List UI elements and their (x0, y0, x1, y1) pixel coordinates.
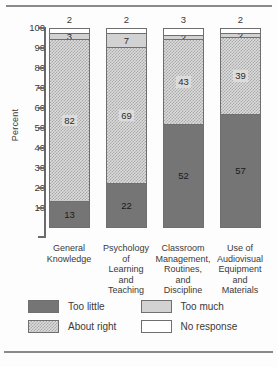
bar-4-value-about-right: 39 (234, 71, 247, 81)
bar-2-segment-too-much: 7 (107, 33, 146, 47)
y-tick-mark-60 (38, 107, 45, 109)
y-tick-mark-50 (38, 127, 45, 129)
bar-4-top-label: 2 (220, 14, 261, 25)
y-tick-mark-70 (38, 87, 45, 89)
legend-swatch-no-response-icon (141, 320, 172, 333)
legend-item-about-right[interactable]: About right (28, 320, 141, 333)
bar-3-value-about-right: 43 (177, 77, 190, 87)
bar-2-value-too-much: 7 (123, 36, 130, 46)
category-label-line: Routines, (152, 264, 214, 275)
bar-2-top-label: 2 (106, 14, 147, 25)
bar-4-value-too-little: 57 (234, 166, 247, 176)
y-tick-100: 100 (0, 27, 45, 29)
stacked-bar-2[interactable]: 76922 (106, 28, 147, 228)
y-tick-70: 70 (0, 87, 45, 89)
category-label-line: of (95, 254, 157, 265)
category-label-line: Learning (95, 264, 157, 275)
legend-label-about-right: About right (68, 321, 116, 332)
legend-row-1: Too little Too much (28, 300, 253, 313)
category-label-line: Audiovisual (209, 254, 271, 265)
stacked-bar-chart: Percent 100908070605040302010 3821327692… (0, 0, 277, 367)
legend-swatch-too-little-icon (28, 300, 59, 313)
y-axis-cap-bottom (38, 236, 46, 238)
y-tick-mark-90 (38, 47, 45, 49)
category-label-line: Knowledge (38, 254, 100, 265)
legend-item-too-much[interactable]: Too much (141, 300, 254, 313)
bar-1-segment-about-right: 82 (50, 39, 89, 201)
stacked-bar-3[interactable]: 24352 (163, 28, 204, 228)
legend-row-2: About right No response (28, 320, 253, 333)
bar-1-top-label: 2 (49, 14, 90, 25)
bar-3-top-label: 3 (163, 14, 204, 25)
bar-column-2: 76922 (106, 28, 147, 228)
y-tick-30: 30 (0, 167, 45, 169)
bar-column-1: 38213 (49, 28, 90, 228)
y-tick-mark-30 (38, 167, 45, 169)
legend-swatch-about-right-icon (28, 320, 59, 333)
y-tick-mark-100 (38, 27, 45, 29)
bar-column-3: 24352 (163, 28, 204, 228)
y-tick-80: 80 (0, 67, 45, 69)
category-label-line: and (95, 275, 157, 286)
legend-item-too-little[interactable]: Too little (28, 300, 141, 313)
bar-column-4: 23957 (220, 28, 261, 228)
y-tick-10: 10 (0, 207, 45, 209)
chart-legend: Too little Too much About right No respo… (28, 300, 253, 340)
category-label-line: Equipment (209, 264, 271, 275)
stacked-bar-1[interactable]: 38213 (49, 28, 90, 228)
y-tick-mark-40 (38, 147, 45, 149)
stacked-bar-4[interactable]: 23957 (220, 28, 261, 228)
legend-item-no-response[interactable]: No response (141, 320, 254, 333)
y-tick-20: 20 (0, 187, 45, 189)
category-label-3: ClassroomManagement,Routines,andDiscipli… (152, 243, 214, 296)
bar-1-value-too-little: 13 (63, 210, 76, 220)
category-label-line: General (38, 243, 100, 254)
category-label-line: Discipline (152, 285, 214, 296)
category-label-line: and (209, 275, 271, 286)
category-label-1: GeneralKnowledge (38, 243, 100, 264)
bar-4-segment-too-little: 57 (221, 114, 260, 227)
category-label-line: Management, (152, 254, 214, 265)
legend-label-no-response: No response (181, 321, 238, 332)
category-label-line: Classroom (152, 243, 214, 254)
category-label-line: Teaching (95, 285, 157, 296)
y-tick-60: 60 (0, 107, 45, 109)
bar-2-value-too-little: 22 (120, 201, 133, 211)
category-label-2: PsychologyofLearningandTeaching (95, 243, 157, 296)
bar-4-segment-about-right: 39 (221, 37, 260, 114)
category-label-4: Use ofAudiovisualEquipmentandMaterials (209, 243, 271, 296)
legend-label-too-much: Too much (181, 301, 224, 312)
bar-3-value-too-little: 52 (177, 171, 190, 181)
legend-label-too-little: Too little (68, 301, 105, 312)
bar-3-segment-about-right: 43 (164, 39, 203, 124)
category-label-line: Materials (209, 285, 271, 296)
y-tick-mark-20 (38, 187, 45, 189)
y-tick-mark-10 (38, 207, 45, 209)
bar-3-segment-too-little: 52 (164, 124, 203, 227)
category-label-line: Psychology (95, 243, 157, 254)
bar-1-segment-too-little: 13 (50, 201, 89, 227)
category-label-line: Use of (209, 243, 271, 254)
y-tick-mark-80 (38, 67, 45, 69)
category-label-line: and (152, 275, 214, 286)
bar-1-value-about-right: 82 (63, 116, 76, 126)
y-tick-40: 40 (0, 147, 45, 149)
legend-swatch-too-much-icon (141, 300, 172, 313)
bar-2-value-about-right: 69 (120, 111, 133, 121)
y-tick-50: 50 (0, 127, 45, 129)
bar-2-segment-about-right: 69 (107, 47, 146, 184)
y-tick-90: 90 (0, 47, 45, 49)
bar-2-segment-too-little: 22 (107, 183, 146, 227)
